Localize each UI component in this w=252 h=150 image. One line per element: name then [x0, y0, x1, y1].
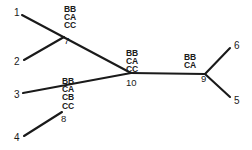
tip-label-5: 5 — [234, 96, 240, 106]
mutation-stack-node-9: BB CA — [184, 53, 196, 69]
mutation-label: CC — [62, 102, 74, 110]
mutation-label: CA — [184, 61, 196, 69]
mutation-label: CC — [64, 21, 76, 29]
phylogenetic-tree-figure: 1 2 3 4 5 6 7 8 9 10 BB CA CC BB CA CB C… — [0, 0, 252, 150]
node-label-7: 7 — [64, 36, 69, 46]
node-label-9: 9 — [201, 74, 206, 84]
tree-label-layer: 1 2 3 4 5 6 7 8 9 10 BB CA CC BB CA CB C… — [0, 0, 252, 150]
node-label-10: 10 — [126, 78, 137, 88]
tip-label-6: 6 — [234, 41, 240, 51]
node-label-8: 8 — [61, 114, 66, 124]
tip-label-2: 2 — [14, 57, 20, 67]
tip-label-4: 4 — [14, 133, 20, 143]
tip-label-1: 1 — [14, 8, 20, 18]
mutation-stack-node-10: BB CA CC — [126, 49, 138, 74]
mutation-stack-node-8: BB CA CB CC — [62, 77, 74, 110]
tip-label-3: 3 — [14, 90, 20, 100]
mutation-label: CC — [126, 65, 138, 73]
mutation-stack-node-7: BB CA CC — [64, 5, 76, 30]
